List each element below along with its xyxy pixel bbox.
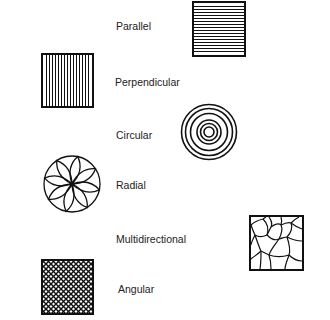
label-perpendicular: Perpendicular <box>115 76 180 88</box>
label-circular: Circular <box>116 129 152 141</box>
irregular-cells-icon <box>249 215 304 271</box>
radial-petals-icon <box>42 154 102 214</box>
label-radial: Radial <box>116 179 146 191</box>
label-angular: Angular <box>118 283 154 295</box>
label-parallel: Parallel <box>116 20 151 32</box>
perpendicular-lines-icon <box>41 53 94 108</box>
parallel-lines-icon <box>192 1 246 57</box>
label-multidirectional: Multidirectional <box>116 233 186 245</box>
crosshatch-icon <box>41 259 94 315</box>
concentric-circles-icon <box>179 102 239 162</box>
